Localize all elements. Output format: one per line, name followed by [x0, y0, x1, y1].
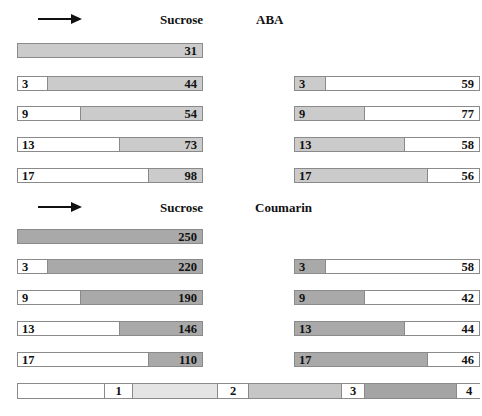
bar-time: 13 [299, 322, 312, 336]
bar-fill [295, 353, 427, 366]
sucrose-bar-17: 17 110 [17, 352, 203, 367]
aba-bar-3: 3 59 [294, 76, 480, 91]
legend-swatch-4 [365, 384, 456, 398]
legend-swatch-2 [133, 384, 217, 398]
sucrose-bar-3: 3 44 [17, 76, 203, 91]
legend-label-3: 3 [341, 384, 365, 398]
coumarin-bar-9: 9 42 [294, 290, 480, 305]
bar-value: 42 [462, 291, 475, 305]
divider [427, 169, 428, 182]
bar-value: 44 [462, 322, 475, 336]
aba-bar-13: 13 58 [294, 137, 480, 152]
bar-value: 77 [462, 107, 475, 121]
header-coumarin: Coumarin [255, 200, 312, 216]
bar-time: 3 [22, 77, 28, 91]
bar-value: 44 [185, 77, 198, 91]
sucrose-bar-13: 13 73 [17, 137, 203, 152]
bar-time: 9 [22, 107, 28, 121]
divider [364, 291, 365, 304]
divider [148, 353, 149, 366]
sucrose-bar-control: 250 [17, 229, 203, 244]
bar-time: 13 [22, 322, 35, 336]
divider [427, 353, 428, 366]
bar-value: 54 [185, 107, 198, 121]
bar-fill [48, 77, 202, 90]
bar-value: 190 [178, 291, 197, 305]
sucrose-bar-control: 31 [17, 43, 203, 58]
sucrose-bar-9: 9 54 [17, 106, 203, 121]
bar-time: 3 [299, 77, 305, 91]
divider [325, 260, 326, 273]
divider [364, 107, 365, 120]
bar-value: 73 [185, 138, 198, 152]
bar-value: 56 [462, 169, 475, 183]
divider [404, 138, 405, 151]
divider [47, 260, 48, 273]
coumarin-bar-17: 17 46 [294, 352, 480, 367]
bar-time: 3 [22, 260, 28, 274]
divider [148, 169, 149, 182]
bar-time: 9 [299, 291, 305, 305]
bar-fill [295, 291, 364, 304]
bar-value: 110 [179, 353, 197, 367]
legend-swatch-1 [18, 384, 104, 398]
coumarin-bar-3: 3 58 [294, 259, 480, 274]
legend-swatch-3 [249, 384, 341, 398]
bar-value: 58 [462, 138, 475, 152]
legend-scale: 1 2 3 4 [17, 383, 480, 399]
bar-time: 3 [299, 260, 305, 274]
bar-value: 220 [178, 260, 197, 274]
bar-value: 98 [185, 169, 198, 183]
sucrose-bar-3: 3 220 [17, 259, 203, 274]
bar-time: 13 [22, 138, 35, 152]
right-arrow-icon [38, 14, 82, 24]
bar-time: 17 [299, 169, 312, 183]
bar-value: 31 [185, 44, 198, 58]
bar-fill [295, 107, 364, 120]
header-aba: ABA [256, 12, 283, 28]
header-sucrose: Sucrose [160, 12, 203, 28]
divider [80, 107, 81, 120]
bar-value: 146 [178, 322, 197, 336]
divider [404, 322, 405, 335]
bar-value: 250 [178, 230, 197, 244]
divider [47, 77, 48, 90]
sucrose-bar-13: 13 146 [17, 321, 203, 336]
bar-time: 17 [299, 353, 312, 367]
divider [119, 138, 120, 151]
bar-value: 59 [462, 77, 475, 91]
divider [325, 77, 326, 90]
right-arrow-icon [38, 202, 82, 212]
aba-bar-9: 9 77 [294, 106, 480, 121]
sucrose-bar-17: 17 98 [17, 168, 203, 183]
bar-time: 13 [299, 138, 312, 152]
bar-value: 46 [462, 353, 475, 367]
bar-fill [18, 44, 202, 57]
divider [80, 291, 81, 304]
bar-time: 9 [299, 107, 305, 121]
legend-label-1: 1 [104, 384, 133, 398]
bar-fill [18, 230, 202, 243]
legend-label-4: 4 [456, 384, 481, 398]
bar-fill [295, 169, 427, 182]
bar-value: 58 [462, 260, 475, 274]
divider [119, 322, 120, 335]
sucrose-bar-9: 9 190 [17, 290, 203, 305]
bar-time: 9 [22, 291, 28, 305]
bar-time: 17 [22, 169, 35, 183]
bar-time: 17 [22, 353, 35, 367]
aba-bar-17: 17 56 [294, 168, 480, 183]
legend-label-2: 2 [217, 384, 249, 398]
coumarin-bar-13: 13 44 [294, 321, 480, 336]
header-sucrose: Sucrose [160, 200, 203, 216]
